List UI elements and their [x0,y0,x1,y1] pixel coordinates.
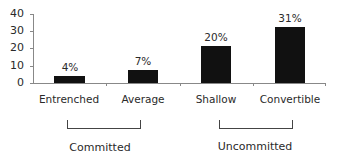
bar-average [128,70,158,83]
category-label: Average [103,93,183,105]
category-label: Shallow [176,93,256,105]
bar-entrenched [54,76,85,83]
y-tick-label: 0 [4,77,24,89]
category-label: Convertible [250,93,330,105]
data-label: 7% [123,55,163,67]
y-tick [30,48,33,49]
x-tick [325,83,326,86]
bar-shallow [201,46,231,83]
y-tick [30,66,33,67]
y-tick-label: 30 [4,25,24,37]
y-tick-label: 40 [4,8,24,20]
x-tick [253,83,254,86]
bar-convertible [275,27,305,83]
category-label: Entrenched [29,93,109,105]
data-label: 4% [50,61,90,73]
x-tick [106,83,107,86]
y-tick [30,14,33,15]
group-label: Uncommitted [205,141,305,153]
y-tick [30,31,33,32]
group-bracket-uncommitted [219,120,293,129]
y-axis [33,14,34,83]
data-label: 20% [196,31,236,43]
y-tick-label: 10 [4,60,24,72]
group-label: Committed [50,142,150,154]
y-tick-label: 20 [4,42,24,54]
group-bracket-committed [67,120,141,129]
data-label: 31% [270,12,310,24]
x-tick [180,83,181,86]
